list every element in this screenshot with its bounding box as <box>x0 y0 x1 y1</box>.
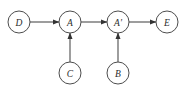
node-label-c: C <box>67 69 74 79</box>
node-d[interactable]: D <box>8 11 30 33</box>
node-c[interactable]: C <box>59 62 81 84</box>
edges-layer <box>30 22 156 62</box>
node-label-a: A <box>66 18 73 28</box>
diagram-canvas: DAA'ECB <box>0 0 187 89</box>
node-e[interactable]: E <box>156 11 178 33</box>
node-ap[interactable]: A' <box>107 11 129 33</box>
node-label-e: E <box>163 18 170 28</box>
node-label-b: B <box>115 69 121 79</box>
causal-graph: DAA'ECB <box>0 0 187 89</box>
node-a[interactable]: A <box>59 11 81 33</box>
node-b[interactable]: B <box>107 62 129 84</box>
node-label-d: D <box>15 18 23 28</box>
node-label-ap: A' <box>113 18 123 28</box>
